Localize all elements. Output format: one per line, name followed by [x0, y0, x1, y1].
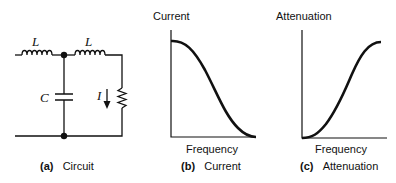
current-xlabel: Frequency	[186, 143, 238, 155]
current-label: I	[97, 88, 101, 104]
attenuation-graph	[302, 30, 387, 138]
caption-b: (b) Current	[181, 160, 241, 172]
caption-a: (a) Circuit	[40, 160, 94, 172]
caption-c-letter: (c)	[300, 160, 313, 172]
resistor-icon	[118, 88, 126, 108]
node-top-icon	[61, 52, 67, 58]
capacitor-label: C	[40, 90, 49, 106]
caption-b-text: Current	[204, 160, 241, 172]
diagram-canvas	[0, 0, 396, 183]
caption-a-text: Circuit	[63, 160, 94, 172]
inductor-left-label: L	[32, 34, 39, 50]
caption-a-letter: (a)	[40, 160, 53, 172]
caption-b-letter: (b)	[181, 160, 195, 172]
inductor-right-icon	[75, 51, 105, 56]
caption-c: (c) Attenuation	[300, 160, 378, 172]
inductor-right-label: L	[85, 34, 92, 50]
current-curve	[171, 41, 256, 137]
circuit-schematic	[15, 51, 126, 137]
current-graph	[171, 30, 256, 137]
current-ylabel: Current	[153, 10, 190, 22]
attenuation-curve	[302, 42, 381, 138]
inductor-left-icon	[22, 51, 52, 56]
caption-c-text: Attenuation	[323, 160, 379, 172]
attenuation-xlabel: Frequency	[315, 143, 367, 155]
attenuation-ylabel: Attenuation	[276, 10, 332, 22]
current-arrow-icon	[104, 89, 111, 109]
capacitor-icon	[55, 94, 73, 100]
node-bottom-icon	[61, 133, 67, 139]
